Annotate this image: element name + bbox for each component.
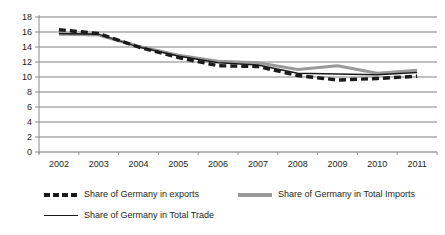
x-tick-label: 2008 xyxy=(281,159,315,169)
y-tick-label: 10 xyxy=(10,72,32,82)
y-tick-label: 0 xyxy=(10,147,32,157)
y-axis-ticks xyxy=(35,17,39,152)
y-tick-label: 14 xyxy=(10,42,32,52)
data-series-layer xyxy=(59,30,417,80)
x-tick-label: 2007 xyxy=(241,159,275,169)
x-tick-label: 2010 xyxy=(360,159,394,169)
legend-label-total-trade: Share of Germany in Total Trade xyxy=(84,210,214,221)
y-tick-label: 8 xyxy=(10,87,32,97)
legend-item-exports: Share of Germany in exports xyxy=(44,189,199,200)
y-tick-label: 2 xyxy=(10,132,32,142)
x-tick-label: 2003 xyxy=(82,159,116,169)
x-tick-label: 2002 xyxy=(42,159,76,169)
y-tick-label: 4 xyxy=(10,117,32,127)
solid-line-swatch xyxy=(44,215,78,216)
x-tick-label: 2009 xyxy=(321,159,355,169)
x-tick-label: 2006 xyxy=(201,159,235,169)
series-line xyxy=(59,34,417,73)
legend-label-exports: Share of Germany in exports xyxy=(84,189,199,200)
y-tick-label: 12 xyxy=(10,57,32,67)
legend-label-total-imports: Share of Germany in Total Imports xyxy=(278,189,415,200)
gray-line-swatch xyxy=(238,193,272,197)
y-tick-label: 16 xyxy=(10,27,32,37)
legend-item-total-imports: Share of Germany in Total Imports xyxy=(238,189,415,200)
x-tick-label: 2004 xyxy=(122,159,156,169)
gridlines xyxy=(39,17,437,152)
line-chart: 181614121086420 200220032004200520062007… xyxy=(0,0,445,235)
chart-legend: Share of Germany in exports Share of Ger… xyxy=(0,183,445,235)
y-tick-label: 18 xyxy=(10,12,32,22)
x-tick-label: 2005 xyxy=(161,159,195,169)
x-tick-label: 2011 xyxy=(400,159,434,169)
y-tick-label: 6 xyxy=(10,102,32,112)
legend-item-total-trade: Share of Germany in Total Trade xyxy=(44,210,214,221)
dashed-line-swatch xyxy=(44,193,78,197)
